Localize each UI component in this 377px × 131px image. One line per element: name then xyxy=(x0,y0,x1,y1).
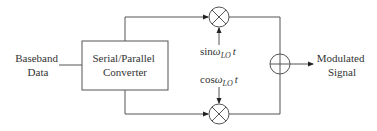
top-branch-line xyxy=(125,17,208,41)
bottom-branch-line xyxy=(125,90,208,114)
bottom-mixer-icon xyxy=(209,104,229,124)
summer-icon xyxy=(270,54,290,74)
block-diagram: Baseband Data Serial/Parallel Converter … xyxy=(0,0,377,131)
output-label: Modulated Signal xyxy=(317,52,367,78)
top-to-summer-line xyxy=(229,17,280,54)
top-mixer-icon xyxy=(209,7,229,27)
sin-carrier-label: sinωLOt xyxy=(200,45,237,60)
converter-label: Serial/Parallel Converter xyxy=(92,52,157,78)
input-label: Baseband Data xyxy=(15,52,61,78)
cos-carrier-label: cosωLOt xyxy=(200,73,239,88)
